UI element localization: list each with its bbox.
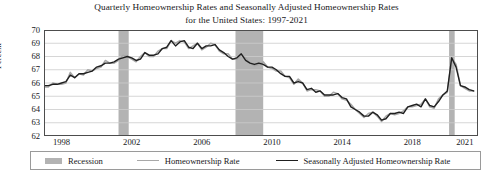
- y-axis-tick: 62: [31, 132, 40, 141]
- line-swatch-icon: [276, 160, 298, 161]
- y-axis-tick: 70: [31, 26, 40, 35]
- legend-label: Homeownership Rate: [165, 156, 240, 166]
- y-axis-tick: 69: [31, 39, 40, 48]
- y-axis-tick: 68: [31, 52, 40, 61]
- x-axis-tick: 2006: [193, 137, 210, 147]
- y-axis-tick: 63: [31, 118, 40, 127]
- y-axis-tick: 66: [31, 79, 40, 88]
- x-axis-tick: 2010: [263, 137, 280, 147]
- x-axis-tick-labels: 1998200220062010201420182021: [44, 137, 478, 149]
- x-axis-tick: 2021: [456, 137, 473, 147]
- chart-title: Quarterly Homeownership Rates and Season…: [0, 1, 493, 26]
- legend-items: RecessionHomeownership RateSeasonally Ad…: [31, 152, 480, 169]
- chart-title-line-2: for the United States: 1997-2021: [0, 14, 493, 27]
- legend-item: Recession: [45, 156, 103, 166]
- plot-svg: [44, 30, 478, 136]
- chart-title-line-1: Quarterly Homeownership Rates and Season…: [0, 1, 493, 14]
- chart-legend: RecessionHomeownership RateSeasonally Ad…: [30, 151, 481, 170]
- x-axis-tick: 2014: [334, 137, 351, 147]
- x-axis-tick: 2018: [404, 137, 421, 147]
- line-swatch-icon: [137, 160, 159, 161]
- y-axis-tick: 67: [31, 65, 40, 74]
- y-axis-label: Percent: [0, 43, 3, 69]
- x-axis-tick: 2002: [123, 137, 140, 147]
- y-axis-tick: 64: [31, 105, 40, 114]
- legend-item: Seasonally Adjusted Homeownership Rate: [276, 156, 451, 166]
- y-axis-tick-labels: 706968676665646362: [14, 30, 40, 136]
- legend-item: Homeownership Rate: [137, 156, 240, 166]
- chart-figure: Quarterly Homeownership Rates and Season…: [0, 0, 493, 174]
- legend-label: Seasonally Adjusted Homeownership Rate: [304, 156, 451, 166]
- y-axis-tick: 65: [31, 92, 40, 101]
- x-axis-tick: 1998: [53, 137, 70, 147]
- plot-area: [44, 30, 478, 136]
- recession-swatch-icon: [45, 158, 62, 164]
- legend-label: Recession: [68, 156, 103, 166]
